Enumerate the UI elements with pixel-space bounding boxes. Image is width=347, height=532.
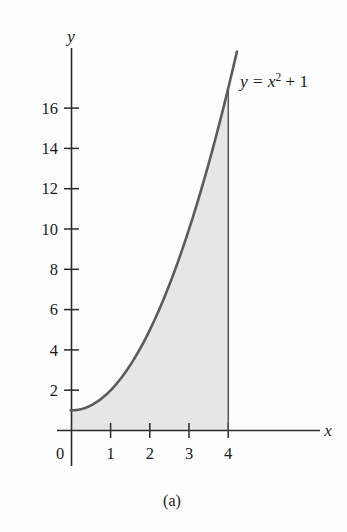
curve-equation-label: y=x2+ 1	[238, 71, 308, 91]
y-tick-label-16: 16	[42, 99, 59, 118]
y-tick-label-2: 2	[50, 381, 58, 400]
y-tick-label-12: 12	[42, 179, 59, 198]
y-axis-label: y	[65, 27, 75, 46]
y-tick-label-14: 14	[42, 139, 59, 158]
x-axis-label: x	[323, 421, 332, 440]
x-tick-label-2: 2	[146, 444, 154, 463]
y-tick-label-4: 4	[50, 341, 58, 360]
graph-canvas: 16 14 12 10 8 6 4 2 1 2 3 4 0 y x y=x2+ …	[0, 0, 347, 532]
shaded-area-under-curve	[72, 88, 229, 431]
y-tick-label-10: 10	[42, 220, 59, 239]
equation-exponent: 2	[275, 71, 281, 83]
x-tick-label-4: 4	[224, 444, 232, 463]
y-tick-label-8: 8	[50, 260, 58, 279]
x-tick-label-3: 3	[185, 444, 193, 463]
x-tick-label-1: 1	[106, 444, 114, 463]
y-tick-labels: 16 14 12 10 8 6 4 2	[42, 99, 59, 400]
figure-caption: (a)	[163, 492, 181, 510]
figure-container: 16 14 12 10 8 6 4 2 1 2 3 4 0 y x y=x2+ …	[0, 0, 347, 532]
equation-base: x	[267, 71, 276, 91]
svg-text:y=x2+ 1: y=x2+ 1	[238, 71, 308, 91]
x-tick-labels: 1 2 3 4	[106, 444, 232, 463]
y-tick-label-6: 6	[50, 300, 58, 319]
origin-label: 0	[56, 444, 64, 463]
equation-plus-term: + 1	[285, 71, 308, 91]
equation-lhs: y	[238, 71, 248, 91]
equation-equals: =	[253, 71, 263, 91]
